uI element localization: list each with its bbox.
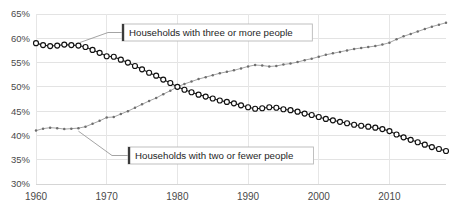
data-point [190, 80, 193, 83]
data-point [253, 106, 258, 111]
data-point [247, 65, 250, 68]
data-point [63, 128, 66, 131]
data-point [416, 30, 419, 32]
data-point [288, 108, 293, 113]
data-point [436, 147, 441, 152]
data-point [387, 129, 392, 134]
data-point [203, 94, 208, 99]
series-line [36, 43, 446, 151]
data-point [97, 50, 102, 55]
callout-leader-line [78, 131, 128, 155]
callout-label-text: Households with two or fewer people [135, 150, 293, 161]
data-point [48, 44, 53, 49]
x-axis-tick-label: 1960 [25, 191, 48, 202]
data-point [231, 101, 236, 106]
data-point [204, 76, 207, 79]
data-point [346, 49, 349, 52]
series-three-or-more [34, 41, 449, 154]
data-point [268, 65, 271, 68]
data-point [240, 67, 243, 70]
chart-container: 65%60%55%50%45%40%35%30% 196019701980199… [0, 0, 450, 216]
data-point [296, 61, 299, 64]
data-point [217, 98, 222, 103]
data-point [125, 60, 130, 65]
data-point [140, 67, 145, 72]
callout-label-text: Households with three or more people [129, 27, 293, 38]
data-point [34, 41, 39, 46]
label-two-or-fewer[interactable]: Households with two or fewer people [78, 131, 313, 164]
data-point [70, 127, 73, 130]
data-point [303, 59, 306, 62]
data-point [141, 103, 144, 106]
data-point [316, 114, 321, 119]
x-axis-tick-label: 1980 [166, 191, 189, 202]
data-point [169, 89, 172, 92]
data-point [408, 137, 413, 142]
data-point [438, 23, 441, 26]
y-axis-tick-labels: 65%60%55%50%45%40%35%30% [11, 8, 31, 189]
data-point [352, 122, 357, 127]
y-axis-tick-label: 30% [11, 178, 31, 189]
data-point [318, 55, 321, 58]
data-point [175, 84, 180, 89]
data-point [309, 113, 314, 118]
data-point [380, 127, 385, 132]
data-point [381, 43, 384, 46]
data-point [118, 57, 123, 62]
data-point [424, 28, 427, 31]
data-point [239, 103, 244, 108]
data-point [233, 69, 236, 72]
line-chart: 65%60%55%50%45%40%35%30% 196019701980199… [0, 0, 450, 216]
data-point [90, 47, 95, 52]
data-point [91, 123, 94, 126]
data-point [35, 129, 38, 132]
y-axis-tick-label: 60% [11, 33, 31, 44]
data-point [147, 70, 152, 75]
data-point [373, 125, 378, 130]
data-point [98, 120, 101, 123]
data-point [197, 78, 200, 81]
data-point [345, 121, 350, 126]
data-point [353, 48, 356, 51]
data-point [367, 46, 370, 49]
data-point [104, 54, 109, 59]
data-point [310, 57, 313, 60]
label-three-or-more[interactable]: Households with three or more people [80, 24, 313, 43]
callout-leader-line [80, 33, 122, 43]
y-axis-tick-label: 50% [11, 81, 31, 92]
data-point [429, 145, 434, 150]
y-axis-tick-label: 35% [11, 154, 31, 165]
data-point [210, 96, 215, 101]
data-point [260, 106, 265, 111]
data-point [275, 65, 278, 68]
data-point [69, 43, 74, 48]
data-point [431, 25, 434, 28]
data-point [196, 92, 201, 97]
data-point [261, 64, 264, 67]
data-point [105, 116, 108, 119]
data-point [330, 118, 335, 123]
x-axis-tick-label: 1970 [96, 191, 119, 202]
callout-accent-bar [122, 24, 124, 41]
data-point [267, 105, 272, 110]
data-point [332, 52, 335, 55]
data-point [113, 116, 116, 119]
data-point [289, 62, 292, 65]
data-point [55, 43, 60, 48]
data-point [183, 83, 186, 86]
data-point [360, 47, 363, 50]
data-point [374, 45, 377, 48]
data-point [402, 35, 405, 38]
x-axis-tick-labels: 196019701980199020002010 [25, 191, 401, 202]
data-point [49, 126, 52, 129]
data-point [325, 54, 328, 57]
data-point [254, 64, 257, 67]
data-point [154, 73, 159, 78]
data-point [339, 51, 342, 54]
data-point [395, 38, 398, 41]
data-point [366, 124, 371, 129]
data-point [388, 41, 391, 44]
data-point [111, 54, 116, 59]
data-point [56, 127, 59, 130]
data-point [323, 116, 328, 121]
